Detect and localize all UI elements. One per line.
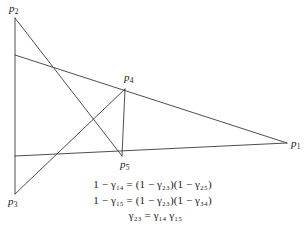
segment-p2-p5: [15, 18, 122, 156]
figure-page: p1 p2 p3 p4 p5 1 − γ₁₄ = (1 − γ₂₃)(1 − γ…: [0, 0, 305, 243]
vertex-label-p1: p1: [291, 138, 300, 149]
vertex-label-p4: p4: [124, 72, 133, 83]
vertex-sub-p5: 5: [126, 163, 130, 172]
equation-line-1: 1 − γ₁₄ = (1 − γ₂₃)(1 − γ₂₅): [0, 177, 305, 193]
vertex-label-p5: p5: [120, 159, 129, 170]
segment-base-to-p1: [15, 143, 287, 156]
vertex-sub-p4: 4: [130, 76, 134, 85]
segment-left-to-p1: [15, 55, 287, 143]
segment-p4-p5: [122, 89, 125, 156]
equation-line-3: γ₂₃ = γ₁₄ γ₁₅: [0, 208, 305, 224]
vertex-sub-p2: 2: [15, 7, 19, 16]
equation-block: 1 − γ₁₄ = (1 − γ₂₃)(1 − γ₂₅) 1 − γ₁₅ = (…: [0, 177, 305, 224]
vertex-label-p2: p2: [9, 3, 18, 14]
equation-line-2: 1 − γ₁₅ = (1 − γ₂₃)(1 − γ₃₄): [0, 193, 305, 209]
vertex-sub-p1: 1: [297, 142, 301, 151]
